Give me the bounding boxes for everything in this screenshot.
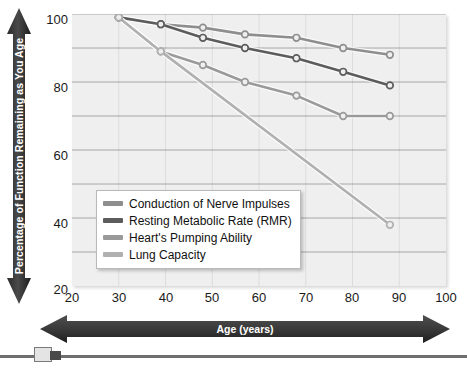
legend-item: Conduction of Nerve Impulses <box>103 195 292 212</box>
legend-swatch-icon <box>103 235 123 240</box>
scrollbar-thumb[interactable] <box>50 351 61 360</box>
x-tick-label: 90 <box>384 290 414 305</box>
y-tick-label: 80 <box>38 80 68 95</box>
x-tick-label: 70 <box>291 290 321 305</box>
y-axis-arrow <box>6 8 32 304</box>
chart-figure: Percentage of Function Remaining as You … <box>0 0 467 369</box>
x-tick-label: 20 <box>57 290 87 305</box>
x-tick-label: 40 <box>151 290 181 305</box>
legend-item: Lung Capacity <box>103 246 292 263</box>
x-tick-label: 50 <box>197 290 227 305</box>
legend-swatch-icon <box>103 201 123 206</box>
x-tick-label: 100 <box>431 290 461 305</box>
y-tick-label: 60 <box>38 148 68 163</box>
x-axis-arrow <box>40 314 450 344</box>
chart-legend: Conduction of Nerve Impulses Resting Met… <box>96 190 301 269</box>
scrollbar-track[interactable] <box>0 355 467 358</box>
legend-swatch-icon <box>103 218 123 223</box>
legend-item: Resting Metabolic Rate (RMR) <box>103 212 292 229</box>
y-tick-label: 40 <box>38 216 68 231</box>
x-tick-label: 30 <box>104 290 134 305</box>
x-tick-label: 60 <box>244 290 274 305</box>
legend-label: Heart's Pumping Ability <box>129 231 252 245</box>
legend-label: Resting Metabolic Rate (RMR) <box>129 214 292 228</box>
legend-swatch-icon <box>103 252 123 257</box>
legend-item: Heart's Pumping Ability <box>103 229 292 246</box>
y-tick-label: 100 <box>38 12 68 27</box>
legend-label: Conduction of Nerve Impulses <box>129 197 290 211</box>
legend-label: Lung Capacity <box>129 248 206 262</box>
x-tick-label: 80 <box>337 290 367 305</box>
x-tick-labels: 20 30 40 50 60 70 80 90 100 <box>0 290 467 310</box>
horizontal-scrollbar[interactable] <box>0 352 467 360</box>
